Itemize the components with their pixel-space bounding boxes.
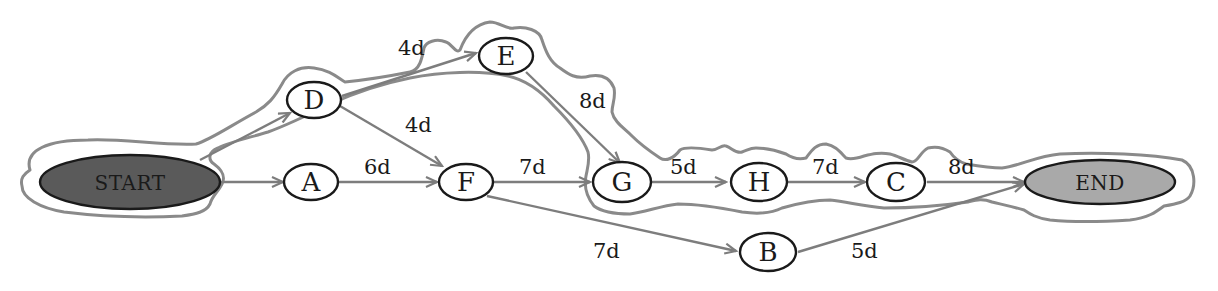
node-start: START — [40, 155, 220, 209]
project-network-diagram: 4d 4d 6d 8d 7d 7d 5d 7d 8d 5d START A D … — [0, 0, 1218, 291]
node-f-label: F — [457, 167, 475, 197]
node-d-label: D — [304, 85, 325, 115]
node-e: E — [479, 38, 533, 74]
node-a: A — [284, 164, 338, 200]
node-end: END — [1025, 160, 1175, 204]
start-label: START — [95, 171, 166, 195]
edge-label-f-b: 7d — [593, 239, 620, 263]
edge-label-f-g: 7d — [519, 155, 546, 179]
edge-label-c-end: 8d — [948, 155, 975, 179]
edge-label-d-f: 4d — [405, 113, 432, 137]
node-h-label: H — [748, 167, 771, 197]
edge-label-g-h: 5d — [670, 155, 697, 179]
node-h: H — [731, 163, 787, 201]
node-g: G — [593, 162, 651, 202]
end-label: END — [1075, 171, 1125, 195]
edge-label-e-g: 8d — [579, 89, 606, 113]
node-b-label: B — [758, 237, 777, 267]
edge-label-d-e: 4d — [398, 36, 425, 60]
node-a-label: A — [301, 167, 322, 197]
node-b: B — [740, 233, 796, 271]
node-f: F — [439, 164, 493, 200]
node-e-label: E — [497, 41, 516, 71]
edge-label-a-f: 6d — [364, 155, 391, 179]
edge-labels: 4d 4d 6d 8d 7d 7d 5d 7d 8d 5d — [364, 36, 975, 263]
node-c-label: C — [886, 167, 906, 197]
edge-label-b-end: 5d — [851, 239, 878, 263]
edge-e-g — [526, 72, 620, 163]
node-d: D — [287, 82, 341, 118]
edge-label-h-c: 7d — [812, 155, 839, 179]
node-g-label: G — [612, 167, 633, 197]
node-c: C — [867, 163, 925, 201]
